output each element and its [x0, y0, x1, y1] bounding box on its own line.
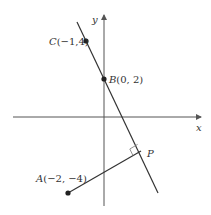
point-b	[101, 76, 106, 81]
label-p: P	[146, 148, 154, 159]
label-b: B(0, 2)	[108, 74, 143, 85]
y-axis-label: y	[91, 14, 98, 25]
label-c: C(−1,4)	[49, 36, 89, 47]
point-a	[65, 190, 70, 195]
line-cb	[77, 22, 158, 193]
label-a: A(−2, −4)	[35, 173, 87, 184]
coordinate-diagram: x y C(−1,4) B(0, 2) A(−2, −4) P	[0, 0, 211, 215]
x-axis-label: x	[196, 122, 202, 133]
